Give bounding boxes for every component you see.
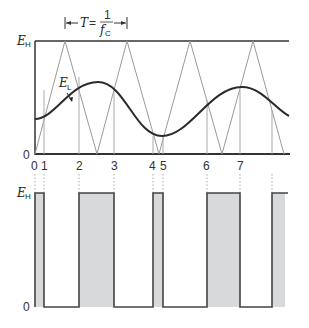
period-den-sub: C [105, 29, 111, 38]
period-T: T [80, 16, 89, 30]
svg-text:0: 0 [31, 159, 38, 173]
pwm-diagram: T = 1 f C E H 0 E L [0, 0, 309, 328]
bottom-zero-label: 0 [23, 300, 30, 314]
svg-text:4: 4 [149, 159, 156, 173]
top-plot: E H 0 E L 0 1 2 3 4 5 6 [16, 34, 290, 173]
svg-text:6: 6 [203, 159, 210, 173]
svg-text:5: 5 [160, 159, 167, 173]
svg-text:L: L [67, 83, 72, 92]
svg-text:1: 1 [41, 159, 48, 173]
svg-text:H: H [25, 40, 31, 49]
period-eq: = [89, 16, 96, 30]
svg-text:7: 7 [237, 159, 244, 173]
connector-lines [35, 174, 272, 193]
svg-text:3: 3 [111, 159, 118, 173]
el-reference-curve [35, 82, 289, 136]
bottom-pwm-plot: E H 0 [16, 186, 288, 314]
svg-text:H: H [25, 192, 31, 201]
period-num: 1 [104, 8, 111, 22]
svg-text:2: 2 [76, 159, 83, 173]
sample-index-labels: 0 1 2 3 4 5 6 7 [31, 159, 244, 173]
top-zero-label: 0 [23, 148, 30, 162]
period-annotation: T = 1 f C [65, 8, 127, 38]
pwm-high-regions [35, 193, 285, 307]
